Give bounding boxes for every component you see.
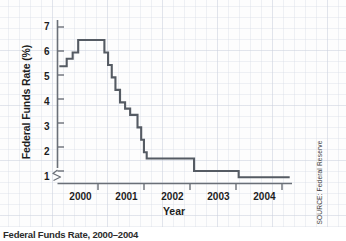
x-tick-label: 2004 [241,191,287,202]
y-tick-label: 2 [36,146,50,157]
y-axis-ticks [58,27,65,171]
y-tick-label: 5 [36,71,50,82]
federal-funds-rate-step-line [59,40,289,177]
x-axis-ticks [98,184,282,191]
x-axis-title: Year [119,205,229,217]
x-tick-label: 2001 [103,191,149,202]
y-tick-label: 1 [36,171,50,182]
x-tick-label: 2002 [149,191,195,202]
figure-caption: Federal Funds Rate, 2000–2004 [3,229,138,240]
y-tick-label: 7 [36,21,50,32]
x-tick-label: 2000 [57,191,103,202]
y-tick-label: 3 [36,121,50,132]
y-tick-label: 6 [36,46,50,57]
x-tick-label: 2003 [195,191,241,202]
chart-figure: Federal Funds Rate (%) Year 1234567 2000… [0,0,346,241]
y-axis-title: Federal Funds Rate (%) [20,27,32,177]
source-note: SOURCE: Federal Reserve [316,115,323,225]
y-tick-label: 4 [36,96,50,107]
